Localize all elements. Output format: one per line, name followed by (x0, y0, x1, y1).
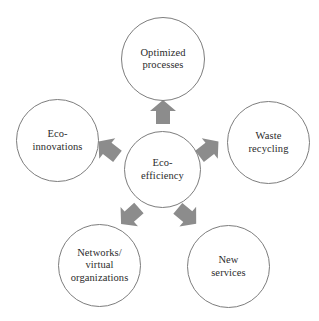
node-waste-recycling[interactable]: Waste recycling (227, 101, 310, 184)
node-label: New services (207, 254, 250, 279)
node-label: Eco- efficiency (137, 157, 188, 182)
node-optimized-processes[interactable]: Optimized processes (121, 17, 205, 101)
node-networks-virtual-organizations[interactable]: Networks/ virtual organizations (58, 224, 141, 307)
node-new-services[interactable]: New services (187, 225, 270, 308)
node-label: Waste recycling (245, 130, 293, 155)
node-label: Optimized processes (136, 47, 189, 72)
node-eco-innovations[interactable]: Eco- innovations (16, 99, 99, 182)
arrow-up-icon (150, 100, 176, 124)
node-label: Eco- innovations (28, 128, 86, 153)
node-eco-efficiency-center[interactable]: Eco- efficiency (124, 131, 201, 208)
node-label: Networks/ virtual organizations (67, 247, 133, 285)
eco-efficiency-diagram: Optimized processes Waste recycling New … (0, 0, 319, 321)
